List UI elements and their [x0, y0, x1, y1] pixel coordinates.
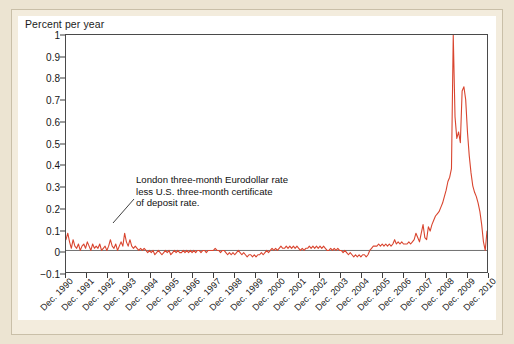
chart-area: Percent per year 10.90.80.70.60.50.40.30… — [18, 16, 496, 320]
annotation-line-2: less U.S. three-month certificate — [136, 186, 336, 198]
x-axis-tick-labels: Dec. 1990Dec. 1991Dec. 1992Dec. 1993Dec.… — [18, 276, 496, 320]
series-annotation: London three-month Eurodollar rate less … — [136, 174, 336, 209]
annotation-line-3: of deposit rate. — [136, 197, 336, 209]
plot-area — [65, 34, 488, 273]
figure-outer-frame: Percent per year 10.90.80.70.60.50.40.30… — [0, 0, 514, 344]
annotation-line-1: London three-month Eurodollar rate — [136, 174, 336, 186]
series-line — [66, 35, 487, 257]
y-axis-title: Percent per year — [25, 18, 104, 30]
y-axis-tick-marks — [18, 34, 65, 273]
chart-card: Percent per year 10.90.80.70.60.50.40.30… — [18, 16, 496, 320]
series-plot-svg — [66, 35, 487, 272]
